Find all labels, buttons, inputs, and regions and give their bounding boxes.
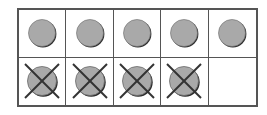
frame-cell-r0-c1 [66, 10, 113, 58]
ten-frame [17, 8, 258, 107]
frame-cell-r1-c4 [209, 58, 256, 106]
frame-cell-r1-c3 [161, 58, 208, 106]
frame-cell-r0-c0 [19, 10, 66, 58]
frame-cell-r0-c2 [114, 10, 161, 58]
crossed-counter-icon [117, 61, 157, 101]
crossed-counter-icon [164, 61, 204, 101]
counter-icon [27, 18, 57, 48]
crossed-counter-icon [70, 61, 110, 101]
frame-cell-r1-c0 [19, 58, 66, 106]
counter-icon [75, 18, 105, 48]
counter-icon [217, 18, 247, 48]
crossed-counter-icon [22, 61, 62, 101]
frame-cell-r0-c3 [161, 10, 208, 58]
frame-cell-r1-c2 [114, 58, 161, 106]
frame-cell-r1-c1 [66, 58, 113, 106]
frame-cell-r0-c4 [209, 10, 256, 58]
counter-icon [122, 18, 152, 48]
counter-icon [169, 18, 199, 48]
